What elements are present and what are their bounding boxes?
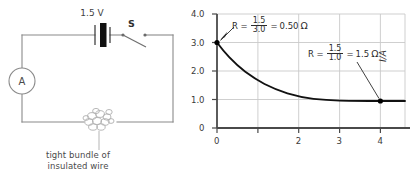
circuit-diagram: A [0,0,200,186]
battery-voltage-label: 1.5 V [62,8,122,18]
x-tick-label-4: 4 [377,136,382,146]
wire-bundle-caption: tight bundle of insulated wire [0,150,178,172]
switch-label: S [128,18,158,29]
annotation-2-unit: Ω [371,48,378,59]
y-tick-label-3: 3.0 [191,38,205,48]
annotation-resistance-at-start: R = 1.5 3.0 = 0.50 Ω [232,17,308,34]
annotation-2-numerator: 1.5 [327,45,344,53]
wire-bundle-caption-line1: tight bundle of [0,150,178,161]
current-vs-time-chart: 4.0 3.0 2.0 1.0 0 0 2 3 4 I/A t/s R = 1.… [200,0,414,186]
annotation-arrowhead-start [220,32,228,41]
annotation-1-prefix: R = [232,21,248,31]
annotation-1-numerator: 1.5 [251,17,268,25]
wire-bundle-caption-line2: insulated wire [0,161,178,172]
data-point-marker-steady [378,98,383,103]
battery-cell-icon [95,23,110,47]
ammeter-icon: A [9,68,35,94]
annotation-2-prefix: R = [308,49,324,59]
figure-root: A [0,0,414,186]
annotation-1-equals: = [270,21,277,31]
annotation-resistance-at-steady: R = 1.5 1.0 = 1.5 Ω [308,45,378,62]
annotation-2-denominator: 1.0 [327,53,344,62]
annotation-leader-steady [357,62,379,99]
x-tick-label-3: 3 [337,136,342,146]
open-switch-icon[interactable] [121,33,146,47]
annotation-2-result: 1.5 [356,49,370,59]
y-axis-title: I/A [378,50,388,62]
y-tick-label-1: 1.0 [191,95,205,105]
annotation-2-fraction: 1.5 1.0 [327,45,344,62]
annotation-1-fraction: 1.5 3.0 [251,17,268,34]
y-tick-label-2: 2.0 [191,66,205,76]
annotation-1-result: 0.50 [280,21,299,31]
y-tick-label-4: 4.0 [191,9,205,19]
annotation-2-equals: = [346,49,353,59]
annotation-1-unit: Ω [301,20,308,31]
annotation-1-denominator: 3.0 [251,25,268,34]
ammeter-label: A [19,76,26,87]
data-point-marker-start [214,40,219,45]
wire-bundle-icon [83,108,114,130]
x-tick-label-0: 0 [214,136,219,146]
y-tick-label-0: 0 [199,123,204,133]
x-tick-label-2: 2 [296,136,301,146]
